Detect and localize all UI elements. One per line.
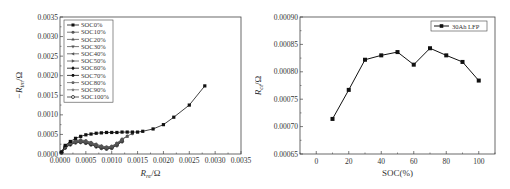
square-marker [188, 103, 191, 106]
square-marker [69, 140, 72, 143]
legend-label: SOC70% [81, 72, 106, 79]
square-marker [412, 63, 416, 67]
x-tick-label: 80 [443, 157, 451, 166]
square-marker [84, 133, 87, 136]
nyquist-plot-svg: 0.00000.00050.00100.00150.00200.00250.00… [0, 0, 255, 189]
x-tick-label: 0 [314, 157, 318, 166]
square-marker [115, 131, 118, 134]
legend-label: SOC60% [81, 64, 106, 71]
circle-marker [105, 145, 108, 148]
legend-label: SOC0% [81, 21, 103, 28]
square-marker [151, 127, 154, 130]
axis-label: −Rim/Ω [14, 72, 25, 100]
circle-marker [84, 139, 87, 142]
y-tick-label: 0.0020 [37, 71, 58, 80]
circle-marker [110, 145, 113, 148]
square-marker [347, 88, 351, 92]
square-marker [131, 130, 134, 133]
circle-marker [120, 138, 123, 141]
x-tick-label: 20 [345, 157, 353, 166]
square-marker [120, 130, 123, 133]
square-marker [136, 130, 139, 133]
y-tick-label: 0.0035 [37, 13, 58, 22]
axis-label: Rct/Ω [255, 75, 264, 96]
legend-label: SOC40% [81, 50, 106, 57]
x-tick-label: 0.0020 [153, 156, 174, 165]
x-tick-label: 0.0015 [127, 156, 148, 165]
x-tick-label: 40 [378, 157, 386, 166]
y-tick-label: 0.0030 [37, 32, 58, 41]
square-marker [126, 130, 129, 133]
y-tick-label: 0.0025 [37, 52, 58, 61]
y-tick-label: 0.0000 [37, 150, 58, 159]
legend-label: SOC100% [81, 93, 109, 100]
y-tick-label: 0.00070 [274, 122, 299, 131]
square-marker [74, 137, 77, 140]
square-marker [379, 53, 383, 57]
y-tick-label: 0.0015 [37, 91, 58, 100]
y-tick-label: 0.00080 [274, 67, 299, 76]
x-axis-label: SOC(%) [382, 168, 413, 178]
square-marker [72, 24, 75, 27]
square-marker [110, 131, 113, 134]
x-tick-label: 0.0035 [231, 156, 252, 165]
square-marker [461, 60, 465, 64]
square-marker [60, 150, 63, 153]
square-marker [331, 117, 335, 121]
square-marker [440, 24, 444, 28]
square-marker [141, 130, 144, 133]
square-marker [64, 144, 67, 147]
y-tick-label: 0.00075 [274, 95, 299, 104]
legend-label: 30Ah LFP [452, 23, 480, 30]
x-tick-label: 0.0030 [205, 156, 226, 165]
x-tick-label: 100 [473, 157, 485, 166]
legend-label: SOC10% [81, 28, 106, 35]
legend: SOC0%SOC10%SOC20%SOC30%SOC40%SOC50%SOC60… [64, 20, 113, 102]
axis-label: Rre/Ω [140, 168, 161, 179]
y-tick-label: 0.0005 [37, 130, 58, 139]
circle-marker [126, 134, 129, 137]
legend-label: SOC90% [81, 86, 106, 93]
circle-marker [72, 31, 75, 34]
circle-marker [79, 138, 82, 141]
square-marker [89, 132, 92, 135]
y-tick-label: 0.0010 [37, 110, 58, 119]
legend-label: SOC20% [81, 36, 106, 43]
x-tick-label: 0.0005 [76, 156, 97, 165]
square-marker [95, 132, 98, 135]
circle-marker [95, 143, 98, 146]
nyquist-plot: 0.00000.00050.00100.00150.00200.00250.00… [0, 0, 255, 189]
square-marker [203, 84, 206, 87]
y-tick-label: 0.00085 [274, 40, 299, 49]
circle-marker [115, 141, 118, 144]
square-marker [444, 53, 448, 57]
square-marker [396, 50, 400, 54]
square-marker [428, 46, 432, 50]
rct-vs-soc-plot-svg: 0204060801000.000650.000700.000750.00080… [255, 0, 510, 189]
legend-label: SOC50% [81, 57, 106, 64]
square-marker [100, 131, 103, 134]
legend: 30Ah LFP [431, 21, 487, 31]
y-tick-label: 0.00065 [274, 150, 299, 159]
square-marker [477, 79, 481, 83]
square-marker [172, 116, 175, 119]
open-circle-marker [72, 96, 75, 99]
rct-vs-soc-plot: 0204060801000.000650.000700.000750.00080… [255, 0, 510, 189]
square-marker [162, 123, 165, 126]
y-tick-label: 0.00090 [274, 13, 299, 22]
circle-marker [89, 141, 92, 144]
circle-marker [100, 144, 103, 147]
legend-label: SOC30% [81, 43, 106, 50]
legend-label: SOC80% [81, 79, 106, 86]
x-tick-label: 60 [410, 157, 418, 166]
square-marker [105, 131, 108, 134]
x-tick-label: 0.0025 [179, 156, 200, 165]
x-tick-label: 0.0010 [101, 156, 122, 165]
square-marker [79, 135, 82, 138]
plot-frame [300, 17, 495, 154]
square-marker [363, 58, 367, 62]
